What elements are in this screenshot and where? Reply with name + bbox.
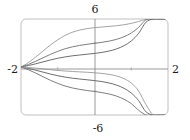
plot-frame <box>21 19 168 115</box>
axis-tick-label-left: -2 <box>7 63 18 76</box>
axis-tick-label-bottom: -6 <box>93 122 104 135</box>
axis-tick-label-right: 2 <box>172 63 179 76</box>
axis-tick-label-top: 6 <box>92 3 99 16</box>
figure-container: 6 -6 -2 2 <box>0 0 190 140</box>
plot-svg: 6 -6 -2 2 <box>0 0 190 140</box>
